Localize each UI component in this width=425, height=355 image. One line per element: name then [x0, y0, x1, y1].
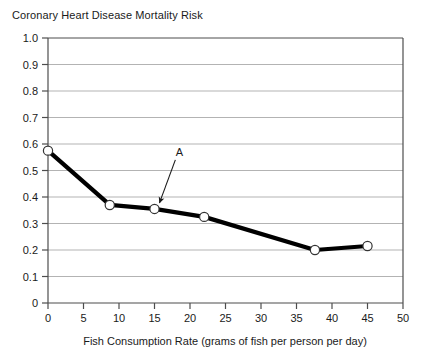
x-tick-label: 30 — [255, 312, 267, 324]
x-tick-label: 35 — [290, 312, 302, 324]
x-tick-label: 5 — [80, 312, 86, 324]
y-tick-label: 0.8 — [23, 85, 38, 97]
data-point-marker — [105, 200, 114, 209]
y-tick-label: 0.7 — [23, 112, 38, 124]
annotation-label-a: A — [176, 146, 184, 158]
y-axis-ticks: 00.10.20.30.40.50.60.70.80.91.0 — [23, 32, 48, 309]
x-tick-label: 40 — [326, 312, 338, 324]
y-tick-label: 0 — [32, 297, 38, 309]
annotation-group: A — [160, 146, 184, 203]
data-point-marker — [200, 212, 209, 221]
x-tick-label: 0 — [45, 312, 51, 324]
data-point-markers — [43, 146, 372, 255]
chart-plot-area: 00.10.20.30.40.50.60.70.80.91.0 05101520… — [0, 0, 425, 355]
data-point-marker — [310, 245, 319, 254]
y-tick-label: 0.3 — [23, 218, 38, 230]
x-tick-label: 45 — [361, 312, 373, 324]
data-point-marker — [43, 146, 52, 155]
data-point-marker — [150, 204, 159, 213]
y-tick-label: 0.6 — [23, 138, 38, 150]
y-tick-label: 1.0 — [23, 32, 38, 44]
x-tick-label: 10 — [113, 312, 125, 324]
x-axis-title: Fish Consumption Rate (grams of fish per… — [83, 335, 367, 347]
x-tick-label: 25 — [219, 312, 231, 324]
y-tick-label: 0.9 — [23, 59, 38, 71]
y-tick-label: 0.5 — [23, 165, 38, 177]
data-point-marker — [363, 241, 372, 250]
y-tick-label: 0.1 — [23, 271, 38, 283]
chart-figure: Coronary Heart Disease Mortality Risk 00… — [0, 0, 425, 355]
y-tick-label: 0.2 — [23, 244, 38, 256]
annotation-arrow — [160, 160, 176, 203]
x-axis-ticks: 05101520253035404550 — [45, 303, 409, 324]
x-tick-label: 20 — [184, 312, 196, 324]
x-tick-label: 50 — [397, 312, 409, 324]
gridlines — [48, 65, 403, 277]
x-tick-label: 15 — [148, 312, 160, 324]
series-line — [48, 151, 368, 250]
y-tick-label: 0.4 — [23, 191, 38, 203]
data-series — [48, 151, 368, 250]
